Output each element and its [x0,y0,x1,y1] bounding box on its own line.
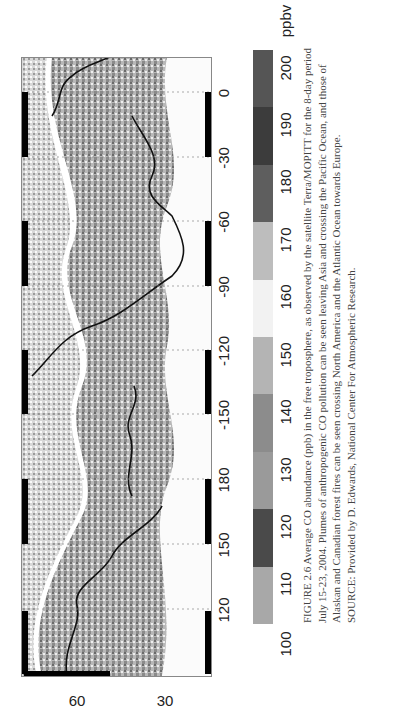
colorbar-segment [253,107,273,164]
colorbar-segment [253,509,273,566]
frame-bar [205,221,211,286]
colorbar-tick: 180 [277,169,294,194]
frame-bar [22,221,28,286]
lon-tick: -150 [215,400,232,430]
lon-tick: -60 [215,211,232,233]
colorbar-tick: 150 [277,342,294,367]
frame-bar [205,92,211,157]
colorbar-segment [253,222,273,279]
colorbar-tick: 200 [277,55,294,80]
frame-bar [205,350,211,414]
colorbar [253,50,273,624]
frame-bar [205,611,211,674]
lon-tick: -120 [215,336,232,366]
frame-bar [22,479,28,544]
figure-caption: FIGURE 2.6 Average CO abundance (ppb) in… [300,33,358,623]
rotated-page: 120 150 180 -150 -120 -90 -60 -30 0 60 3… [0,0,399,721]
colorbar-segment [253,394,273,451]
caption-source: SOURCE: Provided by D. Edwards, National… [344,33,359,623]
colorbar-tick: 170 [277,227,294,252]
colorbar-tick: 100 [277,631,294,656]
colorbar-segment [253,452,273,509]
caption-line: FIGURE 2.6 Average CO abundance (ppb) in… [300,33,315,623]
colorbar-tick: 110 [277,572,294,596]
lat-tick: 60 [69,692,86,709]
caption-line: Alaskan and Canadian forest fires can be… [329,33,344,623]
lon-tick: 0 [215,89,232,97]
lon-tick: -30 [215,147,232,169]
colorbar-tick: 140 [277,399,294,424]
colorbar-segment [253,165,273,222]
colorbar-segment [253,50,273,107]
colorbar-segment [253,567,273,624]
frame-bar [22,92,28,157]
colorbar-unit: ppbv [277,5,294,38]
lon-tick: 150 [215,532,232,557]
lat-tick: 30 [157,692,174,709]
colorbar-tick: 130 [277,457,294,482]
colorbar-segment [253,280,273,337]
colorbar-tick: 160 [277,284,294,309]
frame-bar [22,611,28,674]
co-abundance-map [21,57,212,677]
frame-bar [205,479,211,544]
colorbar-tick: 190 [277,112,294,137]
frame-bar [24,671,110,676]
map-graphic [22,57,212,676]
lon-tick: 180 [215,467,232,492]
lon-tick: 120 [215,597,232,622]
caption-line: July 15-23, 2004. Plumes of anthropogeni… [315,33,330,623]
lon-tick: -90 [215,276,232,298]
colorbar-tick: 120 [277,514,294,539]
colorbar-segment [253,337,273,394]
frame-bar [22,350,28,414]
